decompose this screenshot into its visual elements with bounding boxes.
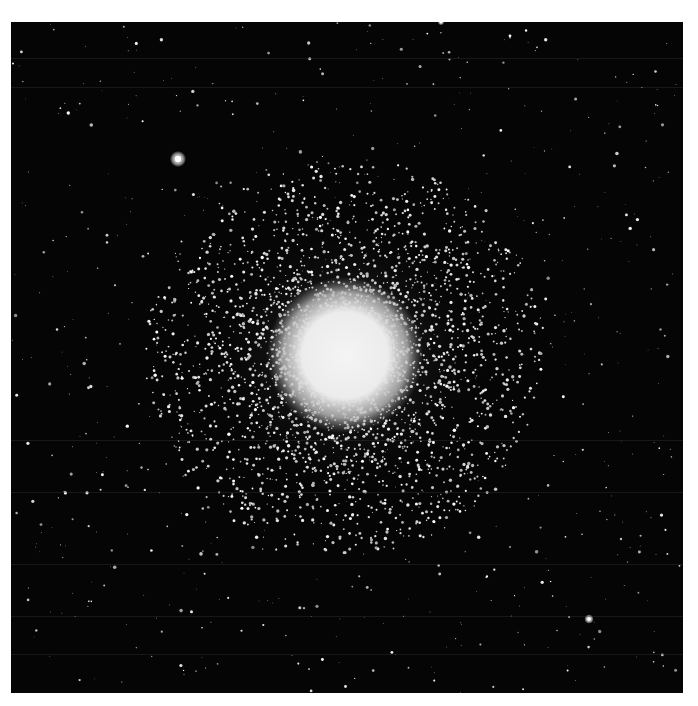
scan-artifact-line — [11, 564, 683, 565]
scan-artifact-line — [11, 492, 683, 493]
scan-artifact-line — [11, 58, 683, 59]
scan-artifact-line — [11, 616, 683, 617]
scan-artifact-line — [11, 440, 683, 441]
scan-artifact-line — [11, 654, 683, 655]
scan-artifact-line — [11, 87, 683, 88]
star-cluster-photo — [11, 22, 683, 693]
star-field — [11, 22, 683, 693]
